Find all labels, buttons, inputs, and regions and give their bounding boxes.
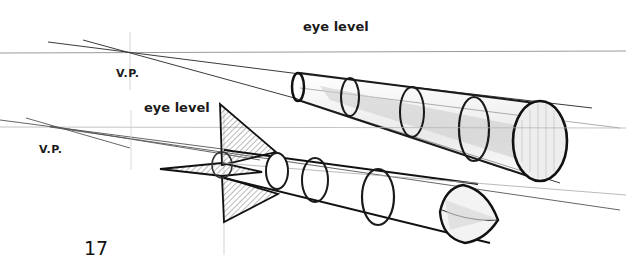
vanishing-point-label-top: V.P. [116, 67, 140, 80]
lower-vp-vertical [131, 108, 224, 255]
perspective-sketch [0, 0, 626, 276]
vanishing-point-label-bottom: V.P. [39, 143, 63, 156]
eye-level-label-top: eye level [303, 19, 369, 34]
upper-horizon-line [0, 51, 626, 53]
page-number: 17 [84, 237, 108, 259]
eye-level-label-bottom: eye level [144, 100, 210, 115]
